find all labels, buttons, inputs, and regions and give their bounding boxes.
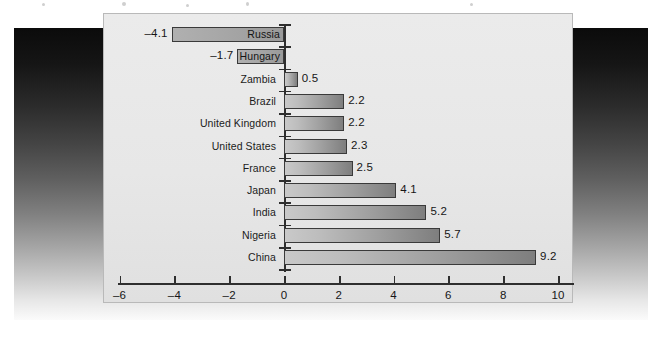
x-axis-tick-label: 4 [374,289,414,301]
bar-nigeria [284,228,440,243]
y-axis-tick [279,113,291,115]
bar-chart-plot-area: Russia–4.1Hungary–1.7Zambia0.5Brazil2.2U… [104,14,574,304]
bar-row: United States2.3 [104,137,574,159]
scan-speck [470,3,473,6]
bar-row: Hungary–1.7 [104,47,574,69]
category-label: United Kingdom [162,117,280,129]
x-axis-tick [339,276,341,285]
bar-row: Brazil2.2 [104,92,574,114]
x-axis-tick-label: 2 [319,289,359,301]
bar-united-kingdom [284,116,344,131]
scan-artifact-strip [0,0,661,12]
y-axis-tick [279,24,291,26]
category-label: China [162,251,280,263]
category-label: India [162,206,280,218]
category-label: Hungary [237,50,284,62]
x-axis-tick [503,276,505,285]
y-axis-tick [279,247,291,249]
scan-speck [246,2,249,6]
x-axis-tick [394,276,396,285]
x-axis-tick-label: –2 [209,289,249,301]
y-axis-tick [279,269,291,271]
value-label: 0.5 [302,72,319,84]
x-axis-tick-label: –6 [100,289,140,301]
x-axis-tick-label: –4 [154,289,194,301]
value-label: 9.2 [540,250,557,262]
bar-united-states [284,139,347,154]
category-label: Russia [172,28,284,40]
y-axis-tick [279,225,291,227]
scan-speck [42,3,45,6]
value-label: 2.5 [357,161,374,173]
x-axis-tick [120,276,122,285]
x-axis-tick [558,276,560,285]
bar-row: India5.2 [104,203,574,225]
y-axis-tick [279,180,291,182]
bar-row: Zambia0.5 [104,70,574,92]
x-axis-tick-label: 0 [264,289,304,301]
category-label: Brazil [162,95,280,107]
x-axis-tick [284,276,286,285]
bar-brazil [284,94,344,109]
category-label: Nigeria [162,229,280,241]
value-label: 2.2 [348,94,365,106]
bar-row: Nigeria5.7 [104,226,574,248]
bar-row: France2.5 [104,159,574,181]
value-label: 5.2 [430,205,447,217]
y-axis-tick [279,46,291,48]
category-label: Zambia [162,73,280,85]
x-axis-tick [229,276,231,285]
bar-china [284,250,536,265]
bar-row: China9.2 [104,248,574,270]
category-label: France [162,162,280,174]
value-label: 2.2 [348,116,365,128]
scan-speck [122,2,126,6]
bar-japan [284,183,396,198]
x-axis-line [118,283,574,285]
y-axis-tick [279,69,291,71]
y-axis-tick [279,136,291,138]
y-axis-tick [279,202,291,204]
x-axis-tick-label: 8 [483,289,523,301]
x-axis-tick-label: 10 [538,289,578,301]
bar-zambia [284,72,298,87]
bar-row: United Kingdom2.2 [104,114,574,136]
chart-panel: Russia–4.1Hungary–1.7Zambia0.5Brazil2.2U… [103,13,573,303]
x-axis-tick [448,276,450,285]
scan-speck [186,4,189,7]
bar-row: Japan4.1 [104,181,574,203]
bar-row: Russia–4.1 [104,25,574,47]
value-label: –4.1 [126,27,168,39]
value-label: –1.7 [191,49,233,61]
bar-india [284,205,426,220]
category-label: United States [162,140,280,152]
value-label: 2.3 [351,139,368,151]
bar-france [284,161,353,176]
category-label: Japan [162,184,280,196]
value-label: 4.1 [400,183,417,195]
x-axis-tick [174,276,176,285]
value-label: 5.7 [444,228,461,240]
y-axis-tick [279,91,291,93]
x-axis-tick-label: 6 [428,289,468,301]
y-axis-tick [279,158,291,160]
